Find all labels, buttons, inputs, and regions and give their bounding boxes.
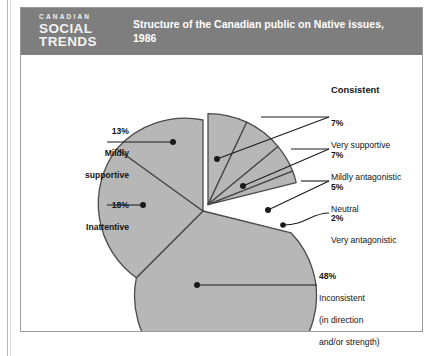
page-edge-rule-secondary <box>10 0 11 356</box>
label-mildly-supportive-name: Mildly <box>105 148 129 158</box>
label-very-antagonistic: 2% Very antagonistic <box>331 202 396 246</box>
brand-line-social: SOCIAL <box>39 22 127 36</box>
canadian-social-trends-logo: CANADIAN SOCIAL TRENDS <box>21 14 127 49</box>
brand-line-canadian: CANADIAN <box>39 14 127 21</box>
label-inattentive-name: Inattentive <box>86 222 129 232</box>
pie-chart-plot-area: Consistent 7% Very supportive 7% Mildly … <box>21 55 422 331</box>
label-very-antagonistic-name: Very antagonistic <box>331 235 396 245</box>
figure-frame: CANADIAN SOCIAL TRENDS Structure of the … <box>20 7 423 332</box>
label-inattentive-pct: 18% <box>112 200 129 210</box>
label-mildly-antagonistic-pct: 7% <box>331 150 343 160</box>
figure-title: Structure of the Canadian public on Nati… <box>127 18 403 46</box>
figure-header-band: CANADIAN SOCIAL TRENDS Structure of the … <box>21 8 422 55</box>
label-mildly-supportive-pct: 13% <box>112 126 129 136</box>
label-neutral-pct: 5% <box>331 182 343 192</box>
label-mildly-supportive: 13% Mildly supportive <box>33 115 129 181</box>
label-inconsistent-name: Inconsistent <box>319 293 365 303</box>
label-mildly-supportive-extra1: supportive <box>85 170 129 180</box>
brand-line-trends: TRENDS <box>39 35 127 49</box>
page-edge-rule <box>7 0 8 356</box>
label-inconsistent: 48% Inconsistent (in direction and/or st… <box>319 260 380 348</box>
group-heading-consistent: Consistent <box>331 84 379 96</box>
label-inattentive: 18% Inattentive <box>33 189 129 233</box>
label-inconsistent-extra1: (in direction <box>319 315 363 325</box>
label-very-antagonistic-pct: 2% <box>331 213 343 223</box>
label-very-supportive-pct: 7% <box>331 118 343 128</box>
leader-very-antagonistic <box>280 213 329 228</box>
pie-group-consistent-exploded <box>208 114 296 205</box>
label-inconsistent-extra2: and/or strength) <box>319 337 380 347</box>
label-inconsistent-pct: 48% <box>319 271 336 281</box>
